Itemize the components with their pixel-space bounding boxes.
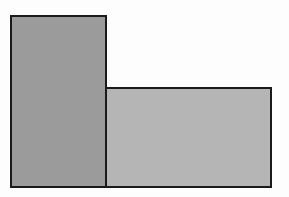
- tall-dark-gray-rectangle: [10, 15, 107, 188]
- diagram-canvas: [0, 0, 289, 197]
- wide-light-gray-rectangle: [105, 87, 272, 188]
